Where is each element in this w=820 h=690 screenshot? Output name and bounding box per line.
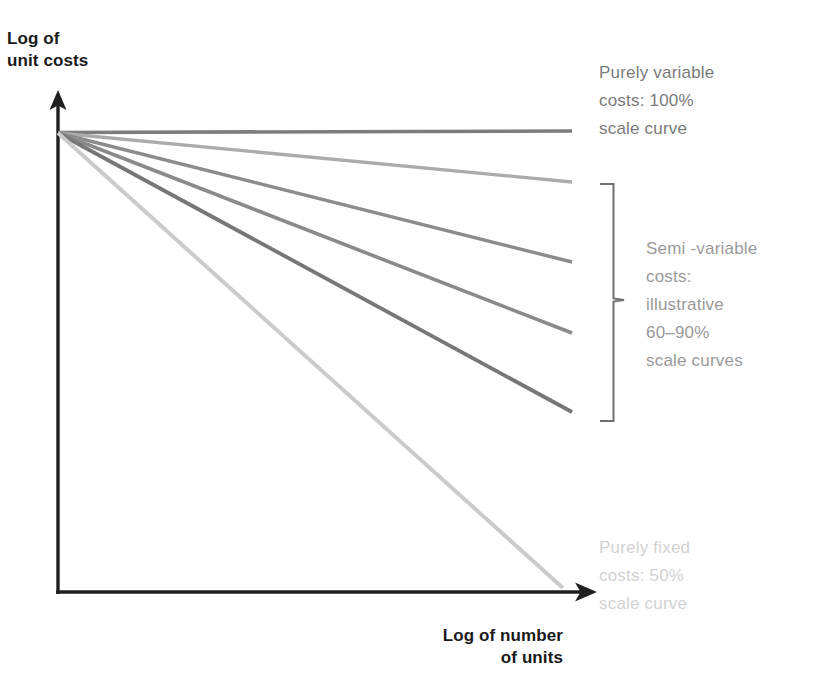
purely-fixed-line3: scale curve xyxy=(599,594,687,613)
semi-variable-line1: Semi -variable xyxy=(646,239,757,258)
semi-variable-line4: 60–90% xyxy=(646,323,710,342)
axes-group xyxy=(50,90,598,602)
annotation-purely-variable: Purely variable costs: 100% scale curve xyxy=(599,63,714,138)
semi-variable-line2: costs: xyxy=(646,267,692,286)
semi-variable-line5: scale curves xyxy=(646,351,743,370)
purely-variable-line2: costs: 100% xyxy=(599,91,694,110)
purely-fixed-line1: Purely fixed xyxy=(599,538,690,557)
y-axis-title-line1: Log of xyxy=(7,29,60,48)
x-axis-title: Log of number of units xyxy=(443,626,564,667)
scale-curves-group xyxy=(58,131,572,588)
semi-variable-bracket-icon xyxy=(600,184,624,421)
scale-curve-50 xyxy=(58,133,563,588)
y-axis-title-line2: unit costs xyxy=(7,51,88,70)
annotation-semi-variable: Semi -variable costs: illustrative 60–90… xyxy=(646,239,757,370)
x-axis-title-line2: of units xyxy=(501,648,563,667)
annotation-purely-fixed: Purely fixed costs: 50% scale curve xyxy=(599,538,690,613)
y-axis-title: Log of unit costs xyxy=(7,29,88,70)
scale-curve-chart: Log of unit costs Purely variable co xyxy=(0,0,820,690)
purely-variable-line1: Purely variable xyxy=(599,63,714,82)
chart-canvas: Log of unit costs Purely variable co xyxy=(0,0,820,690)
purely-fixed-line2: costs: 50% xyxy=(599,566,684,585)
semi-variable-line3: illustrative xyxy=(646,295,724,314)
scale-curve-100 xyxy=(58,131,572,133)
x-axis-title-line1: Log of number xyxy=(443,626,564,645)
scale-curve-70 xyxy=(58,133,572,333)
purely-variable-line3: scale curve xyxy=(599,119,687,138)
scale-curve-80 xyxy=(58,133,572,262)
